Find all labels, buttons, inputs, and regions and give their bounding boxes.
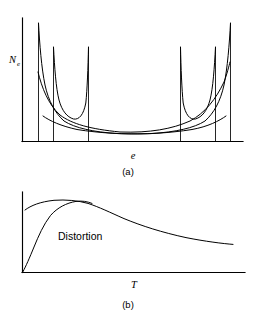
panel-b-caption: (b) [122, 299, 134, 310]
panel-a-caption: (a) [122, 166, 134, 177]
figure-svg: N e e (a) Distortion T (b) [0, 0, 256, 319]
panel-b-plateau-decay-curve [25, 200, 233, 244]
panel-b-x-axis-label: T [131, 279, 138, 290]
panel-a-background-band [38, 62, 230, 132]
panel-a-spike-left-tail [39, 23, 227, 134]
panel-a-y-axis-label-subscript: e [17, 60, 20, 68]
panel-a-band-left-u-curve [54, 47, 89, 119]
panel-a-band-right-u-curve [181, 47, 216, 119]
panel-b-group: Distortion T (b) [22, 192, 245, 310]
panel-b-distortion-annotation: Distortion [58, 230, 103, 242]
panel-a-y-axis-label: N [8, 54, 17, 65]
figure-root: N e e (a) Distortion T (b) [0, 0, 256, 319]
panel-a-x-axis-label: e [131, 150, 136, 161]
panel-a-group: N e e (a) [8, 18, 243, 177]
panel-a-spike-right-tail [43, 23, 231, 134]
